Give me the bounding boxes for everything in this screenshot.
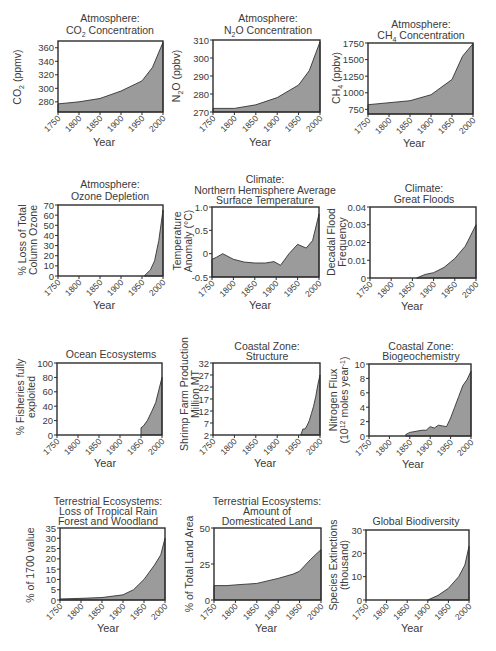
x-axis-label: Year — [93, 299, 116, 311]
chart-n2o: Atmosphere: N2O Concentration 2702802903… — [170, 12, 325, 148]
y-tick-label: 360 — [38, 42, 54, 53]
chart-title-line3: Surface Temperature — [216, 194, 314, 206]
chart-title-line2: Structure — [246, 350, 289, 362]
x-tick-label: 1850 — [391, 601, 412, 622]
y-axis-label: CH4 (ppbv) — [330, 52, 344, 104]
x-tick-label: 1900 — [415, 115, 436, 136]
chart-title-line1: Atmosphere: — [80, 178, 140, 190]
x-axis-label: Year — [401, 622, 424, 634]
y-axis-ticks: 270280290300310 — [193, 35, 213, 118]
x-tick-label: 1750 — [42, 277, 63, 298]
area-series — [368, 44, 473, 114]
x-axis-label: Year — [93, 136, 116, 148]
plot-frame — [213, 363, 320, 435]
y-tick-label: 25 — [199, 559, 210, 570]
x-axis-label: Year — [249, 299, 272, 311]
area-series — [406, 371, 471, 436]
x-axis-ticks: 175018001850190019502000 — [197, 435, 325, 457]
y-tick-label: 0 — [203, 248, 208, 259]
x-axis-ticks: 175018001850190019502000 — [198, 600, 326, 622]
x-tick-label: 1900 — [107, 601, 128, 622]
x-tick-label: 2000 — [457, 115, 478, 136]
chart-ozone: Atmosphere: Ozone Depletion 010203040506… — [16, 178, 168, 311]
x-tick-label: 1850 — [394, 437, 415, 458]
y-tick-label: 35 — [45, 523, 56, 534]
x-tick-label: 1850 — [396, 279, 417, 300]
x-axis-label: Year — [249, 136, 272, 148]
x-axis-ticks: 175018001850190019502000 — [196, 277, 324, 299]
y-tick-label: 1000 — [343, 87, 364, 98]
area-series — [417, 225, 476, 278]
x-tick-label: 2000 — [303, 278, 324, 299]
y-tick-label: 0.03 — [348, 219, 367, 230]
chart-title-line2: Ozone Depletion — [71, 190, 149, 202]
chart-temperature: Climate: Northern Hemisphere Average Sur… — [171, 173, 336, 311]
chart-forest: Terrestrial Ecosystems: Loss of Tropical… — [24, 495, 170, 634]
x-tick-label: 2000 — [147, 277, 168, 298]
x-tick-label: 1950 — [126, 277, 147, 298]
x-tick-label: 1750 — [198, 601, 219, 622]
y-axis-ticks: 020406080100 — [37, 358, 57, 441]
y-tick-label: 60 — [42, 386, 53, 397]
y-axis-label-line2: Million MT — [189, 370, 201, 418]
y-tick-label: 7 — [204, 418, 209, 429]
chart-title-line1: Global Biodiversity — [373, 515, 461, 527]
x-tick-label: 1800 — [218, 436, 239, 457]
y-tick-label: 280 — [193, 89, 209, 100]
x-tick-label: 1850 — [84, 277, 105, 298]
chart-title-line2: CO2 Concentration — [66, 24, 154, 38]
x-axis-ticks: 175018001850190019502000 — [350, 600, 474, 622]
x-tick-label: 1800 — [63, 277, 84, 298]
y-tick-label: 10 — [43, 260, 54, 271]
x-tick-label: 1900 — [262, 601, 283, 622]
x-tick-label: 1950 — [435, 437, 456, 458]
chart-title-line2: Great Floods — [394, 193, 455, 205]
chart-title-line2: N2O Concentration — [224, 24, 312, 38]
x-axis-label: Year — [97, 622, 120, 634]
y-tick-label: 280 — [38, 96, 54, 107]
area-series — [212, 214, 319, 277]
x-tick-label: 1750 — [197, 436, 218, 457]
x-tick-label: 1850 — [241, 601, 262, 622]
x-tick-label: 2000 — [304, 113, 325, 134]
x-axis-ticks: 175018001850190019502000 — [42, 276, 168, 298]
x-tick-label: 1750 — [352, 115, 373, 136]
x-axis-ticks: 175018001850190019502000 — [42, 112, 168, 134]
y-axis-ticks: 00.010.020.030.04 — [348, 202, 371, 284]
chart-biodiversity: Global Biodiversity 0102030 175018001850… — [327, 515, 474, 634]
x-tick-label: 1750 — [42, 113, 63, 134]
y-tick-label: 0.5 — [195, 225, 208, 236]
x-tick-label: 1800 — [65, 601, 86, 622]
x-tick-label: 1800 — [373, 437, 394, 458]
x-tick-label: 1750 — [41, 436, 62, 457]
x-axis-label: Year — [402, 458, 425, 470]
x-tick-label: 1800 — [218, 113, 239, 134]
x-tick-label: 1750 — [353, 437, 374, 458]
chart-nitrogen: Coastal Zone: Biogeochemistry 0246810 17… — [327, 340, 476, 470]
y-tick-label: 10 — [351, 571, 362, 582]
y-axis-label-line2: (1012 moles year-1) — [338, 357, 350, 444]
chart-co2: Atmosphere: CO2 Concentration 2803003203… — [11, 12, 168, 148]
y-tick-label: 750 — [348, 104, 364, 115]
y-tick-label: 340 — [38, 56, 54, 67]
y-axis-ticks: 02550 — [199, 523, 214, 606]
chart-ch4: Atmosphere: CH4 Concentration 7501000125… — [330, 18, 478, 149]
x-tick-label: 1800 — [63, 113, 84, 134]
x-tick-label: 1800 — [371, 601, 392, 622]
y-tick-label: 20 — [42, 415, 53, 426]
y-axis-label: % of 1700 value — [24, 527, 36, 602]
x-tick-label: 1950 — [284, 601, 305, 622]
x-tick-label: 1850 — [239, 278, 260, 299]
y-axis-label: CO2 (ppmv) — [11, 49, 25, 104]
y-tick-label: 2 — [360, 416, 365, 427]
area-series — [213, 42, 320, 112]
area-series — [144, 210, 163, 276]
y-axis-ticks: 0102030 — [351, 525, 366, 606]
y-tick-label: 70 — [43, 200, 54, 211]
y-tick-label: 100 — [37, 358, 53, 369]
x-tick-label: 1800 — [375, 279, 396, 300]
y-axis-label-line2: Column Ozone — [27, 205, 39, 275]
x-tick-label: 1900 — [105, 113, 126, 134]
chart-title-line2: Biogeochemistry — [382, 350, 460, 362]
chart-title-line1: Atmosphere: — [80, 12, 140, 24]
